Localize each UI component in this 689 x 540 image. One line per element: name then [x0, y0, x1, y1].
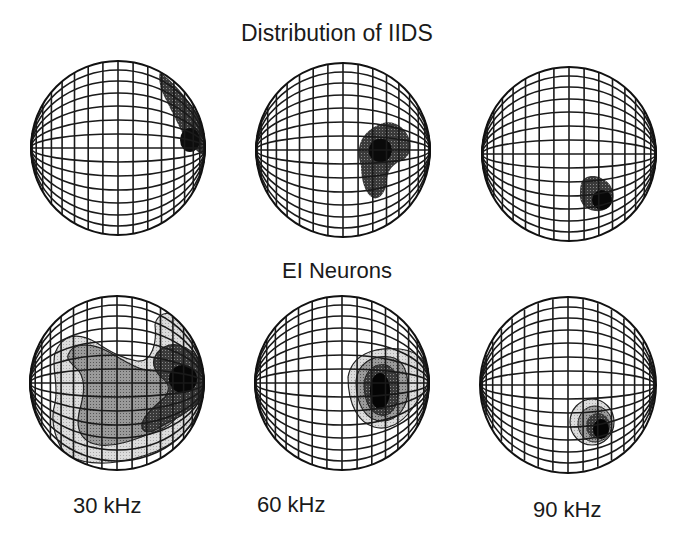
- globe-iids-30khz: [31, 61, 206, 235]
- globe-ei-90khz: [480, 297, 656, 473]
- globe-iids-60khz: [256, 63, 430, 237]
- globe-ei-30khz: [30, 296, 205, 470]
- globe-iids-90khz: [482, 67, 656, 241]
- globe-figure: [0, 0, 689, 540]
- globe-ei-60khz: [255, 296, 429, 470]
